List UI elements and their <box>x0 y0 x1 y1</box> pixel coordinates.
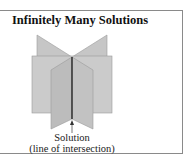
caption-line-of-intersection: (line of intersection) <box>29 143 115 154</box>
front-plane-right <box>72 57 93 129</box>
caption-solution: Solution <box>54 132 90 143</box>
front-plane-left <box>51 57 72 129</box>
three-planes-diagram <box>0 0 192 165</box>
arrow-up-icon <box>70 120 74 125</box>
